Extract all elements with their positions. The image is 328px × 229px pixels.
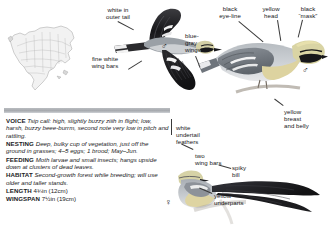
fact-length: LENGTH 4¾in (12cm) — [6, 187, 169, 194]
callout-black-mask: black “mask” — [292, 5, 324, 19]
fact-key-habitat: HABITAT — [6, 171, 33, 178]
callout-white-undertail-feathers: white undertail feathers — [176, 124, 216, 146]
fact-key-nesting: NESTING — [6, 140, 34, 147]
fact-voice: VOICE Tsip call: high, slightly buzzy zi… — [6, 117, 169, 139]
section-divider — [4, 108, 170, 113]
fact-key-wingspan: WINGSPAN — [6, 195, 40, 202]
callout-black-eye-line: black eye-line — [214, 5, 246, 19]
fact-habitat: HABITAT Second-growth forest while breed… — [6, 171, 169, 186]
field-guide-plate: white in outer tail fine white wing bars… — [0, 0, 328, 229]
callout-spiky-bill: spiky bill — [232, 164, 258, 178]
fact-nesting: NESTING Deep, bulky cup of vegetation, j… — [6, 140, 169, 155]
callout-blue-gray-wings: blue- gray wings — [185, 32, 211, 54]
callout-yellow-underparts: yellow underparts — [214, 192, 258, 206]
male-symbol-perched: ♂ — [302, 66, 309, 75]
callout-fine-white-wing-bars: fine white wing bars — [83, 55, 127, 69]
north-america-range-map — [4, 16, 80, 96]
fact-feeding: FEEDING Moth larvae and small insects; h… — [6, 156, 169, 171]
callout-yellow-head: yellow head — [256, 5, 286, 19]
species-facts-panel: VOICE Tsip call: high, slightly buzzy zi… — [6, 117, 169, 204]
fact-text-voice: Tsip call: high, slightly buzzy ziiih in… — [6, 117, 168, 139]
male-symbol-flight: ♂ — [161, 42, 168, 51]
callout-two-wing-bars: two wing bars — [195, 152, 231, 166]
fact-key-voice: VOICE — [6, 117, 26, 124]
fact-text-wingspan: 7½in (19cm) — [42, 195, 76, 202]
callout-yellow-breast-and-belly: yellow breast and belly — [284, 108, 326, 130]
fact-key-feeding: FEEDING — [6, 156, 34, 163]
female-symbol-perched: ♀ — [165, 198, 172, 207]
callout-white-outer-tail: white in outer tail — [95, 6, 141, 20]
fact-text-length: 4¾in (12cm) — [34, 187, 68, 194]
leader-line-white-undertail-feathers — [171, 119, 172, 135]
fact-wingspan: WINGSPAN 7½in (19cm) — [6, 195, 169, 202]
fact-key-length: LENGTH — [6, 187, 32, 194]
